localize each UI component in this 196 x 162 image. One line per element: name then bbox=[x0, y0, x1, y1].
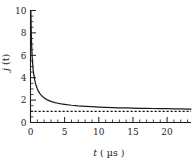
chart-background bbox=[0, 0, 196, 162]
x-tick-label: 20 bbox=[161, 127, 173, 137]
y-tick-label: 10 bbox=[15, 6, 27, 16]
x-axis-title-symbol: t bbox=[93, 147, 97, 158]
y-tick-label: 0 bbox=[21, 118, 27, 128]
y-axis-title: j (t) bbox=[0, 54, 11, 73]
y-axis-title-arg: (t) bbox=[0, 54, 11, 65]
y-tick-label: 8 bbox=[21, 28, 27, 38]
x-tick-label: 10 bbox=[93, 127, 105, 137]
y-tick-label: 6 bbox=[21, 51, 27, 61]
x-tick-label: 5 bbox=[62, 127, 68, 137]
y-tick-label: 2 bbox=[21, 95, 27, 105]
chart-figure: 05101520 0246810 t ( µs ) j (t) bbox=[0, 0, 196, 162]
x-tick-label: 0 bbox=[28, 127, 34, 137]
y-tick-label: 4 bbox=[21, 73, 27, 83]
x-tick-label: 15 bbox=[127, 127, 139, 137]
x-axis-title-unit: ( µs ) bbox=[100, 147, 125, 158]
